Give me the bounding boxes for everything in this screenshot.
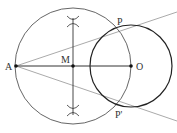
point-M [71, 64, 75, 68]
tangent-line-AP-prime [16, 66, 177, 121]
label-P: P [117, 16, 123, 27]
tangent-line-AP [16, 12, 177, 66]
label-O: O [136, 61, 143, 72]
label-A: A [5, 61, 13, 72]
label-M: M [61, 54, 70, 65]
geometry-diagram: A M O P P' [0, 0, 177, 133]
point-A [14, 64, 18, 68]
point-O [129, 64, 133, 68]
label-P-prime: P' [115, 109, 123, 120]
